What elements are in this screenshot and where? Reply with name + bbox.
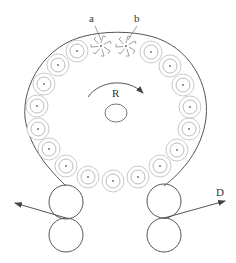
right-lower-roller bbox=[147, 218, 181, 252]
left-upper-roller bbox=[49, 185, 83, 219]
small-roll bbox=[179, 96, 201, 118]
small-roll bbox=[66, 40, 88, 62]
small-roll bbox=[26, 95, 48, 117]
small-roll bbox=[166, 139, 188, 161]
fan-roll-a bbox=[91, 36, 111, 56]
small-roll bbox=[127, 166, 149, 188]
apparatus-diagram bbox=[0, 0, 236, 263]
small-roll bbox=[77, 166, 99, 188]
small-roll bbox=[178, 118, 200, 140]
small-roll bbox=[55, 155, 77, 177]
small-roll bbox=[149, 155, 171, 177]
small-roll bbox=[172, 74, 194, 96]
label-output: D bbox=[216, 187, 224, 198]
small-roll bbox=[140, 41, 162, 63]
right-upper-roller bbox=[147, 184, 181, 218]
label-a: a bbox=[89, 13, 94, 24]
small-roll bbox=[33, 73, 55, 95]
small-roll bbox=[27, 118, 49, 140]
small-roll bbox=[47, 54, 69, 76]
input-arrow bbox=[15, 203, 66, 218]
label-rotation: R bbox=[112, 88, 119, 99]
small-roll bbox=[38, 138, 60, 160]
small-roll bbox=[159, 55, 181, 77]
fan-roll-b bbox=[116, 36, 136, 56]
left-lower-roller bbox=[49, 218, 83, 252]
small-roll bbox=[102, 170, 124, 192]
label-b: b bbox=[134, 13, 140, 24]
roll-ring bbox=[26, 40, 201, 192]
output-arrow bbox=[164, 201, 225, 218]
center-hub bbox=[105, 104, 127, 122]
